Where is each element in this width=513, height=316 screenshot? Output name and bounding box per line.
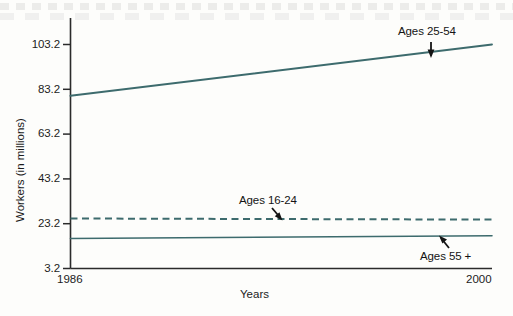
annotation-arrow-ages-55-plus <box>439 236 449 249</box>
x-tick-label-end: 2000 <box>466 273 492 285</box>
y-tick-label-0: 3.2 <box>8 262 60 274</box>
series-line-ages-55-plus <box>71 236 493 239</box>
y-tick-label-4: 83.2 <box>8 83 60 95</box>
y-tick-label-5: 103.2 <box>8 38 60 50</box>
plot-canvas <box>0 0 513 316</box>
x-tick-label-start: 1986 <box>57 273 83 285</box>
y-tick-marks <box>63 45 71 269</box>
annotation-arrow-ages-25-54 <box>428 42 435 58</box>
series-label-ages-25-54: Ages 25-54 <box>398 25 456 37</box>
annotation-arrow-ages-16-24 <box>272 208 283 221</box>
series-label-ages-55-plus: Ages 55 + <box>420 250 471 262</box>
series-label-ages-16-24: Ages 16-24 <box>239 194 297 206</box>
chart-figure: 3.2 23.2 43.2 63.2 83.2 103.2 1986 2000 … <box>0 0 513 316</box>
y-axis-title: Workers (in millions) <box>14 118 26 222</box>
x-axis-title: Years <box>240 288 269 300</box>
